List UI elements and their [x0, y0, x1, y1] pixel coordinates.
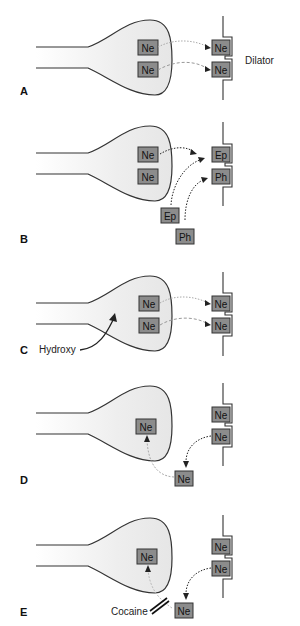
- panel-e: Ne Ne Ne Ne Cocaine E: [20, 515, 232, 618]
- external-ne-label: Ne: [178, 474, 191, 485]
- vesicle-label: Ne: [143, 299, 156, 310]
- dilator-label: Dilator: [245, 55, 275, 66]
- effector-membrane: [223, 16, 232, 100]
- diffusion-arrow: [186, 568, 211, 594]
- arrowhead-icon: [183, 593, 189, 600]
- vesicle-label: Ne: [142, 43, 155, 54]
- receptor-label: Ne: [215, 432, 228, 443]
- effector-membrane: [223, 272, 232, 356]
- nerve-terminal: [36, 20, 172, 95]
- arrowhead-icon: [190, 149, 197, 155]
- panel-letter: C: [20, 344, 28, 356]
- arrowhead-icon: [201, 177, 208, 183]
- receptor-label: Ne: [215, 299, 228, 310]
- receptor-label: Ph: [215, 172, 227, 183]
- receptor-label: Ne: [215, 43, 228, 54]
- vesicle-label: Ne: [142, 172, 155, 183]
- panel-letter: A: [20, 85, 28, 97]
- receptor-label: Ep: [215, 150, 228, 161]
- panel-letter: E: [20, 606, 27, 618]
- arrowhead-icon: [205, 66, 211, 72]
- panel-letter: B: [20, 233, 28, 245]
- arrowhead-icon: [205, 44, 211, 50]
- nerve-terminal: [36, 126, 172, 201]
- vesicle-label: Ne: [142, 150, 155, 161]
- nerve-terminal: [36, 276, 172, 351]
- panel-b: Ne Ne Ep Ph Ep Ph B: [20, 122, 232, 245]
- panel-d: Ne Ne Ne Ne D: [20, 383, 232, 486]
- receptor-label: Ne: [215, 410, 228, 421]
- arrowhead-icon: [205, 321, 211, 327]
- vesicle-label: Ne: [143, 321, 156, 332]
- cocaine-label: Cocaine: [111, 606, 148, 617]
- arrowhead-icon: [198, 157, 205, 163]
- effector-membrane: [223, 383, 232, 466]
- diffusion-arrow: [186, 436, 211, 462]
- vesicle-label: Ne: [142, 65, 155, 76]
- receptor-label: Ne: [215, 542, 228, 553]
- hydroxy-label: Hydroxy: [39, 344, 76, 355]
- panel-letter: D: [20, 474, 28, 486]
- external-drug-label: Ep: [164, 211, 177, 222]
- receptor-label: Ne: [215, 564, 228, 575]
- external-ne-label: Ne: [178, 606, 191, 617]
- effector-membrane: [223, 515, 232, 598]
- agonist-arrow: [185, 180, 203, 220]
- vesicle-label: Ne: [141, 552, 154, 563]
- receptor-label: Ne: [215, 321, 228, 332]
- external-drug-label: Ph: [179, 232, 191, 243]
- arrowhead-icon: [205, 300, 211, 306]
- cocaine-blocker-icon: [150, 598, 169, 614]
- effector-membrane: [223, 122, 232, 206]
- agonist-arrow: [171, 160, 200, 205]
- panel-c: Ne Ne Ne Ne Hydroxy C: [20, 272, 232, 356]
- arrowhead-icon: [183, 461, 189, 468]
- diagram-canvas: Ne Ne Ne Ne Dilator A Ne Ne Ep Ph Ep: [0, 0, 300, 626]
- panel-a: Ne Ne Ne Ne Dilator A: [20, 16, 275, 100]
- receptor-label: Ne: [215, 65, 228, 76]
- vesicle-label: Ne: [140, 422, 153, 433]
